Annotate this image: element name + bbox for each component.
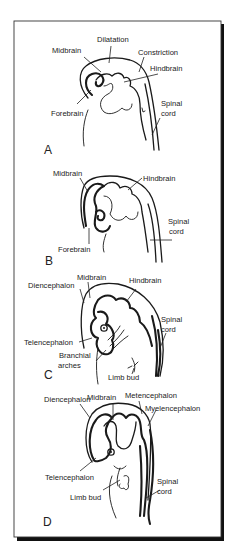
label-c-branchial: Branchial <box>59 351 91 360</box>
label-b-spinal: Spinal <box>168 217 189 226</box>
label-c-midbrain: Midbrain <box>77 273 106 282</box>
label-d-midbrain: Midbrain <box>87 393 116 402</box>
panel-d-letter: D <box>43 515 52 529</box>
label-b-forebrain: Forebrain <box>58 245 91 254</box>
label-c-spinal: Spinal <box>161 315 182 324</box>
label-c-limb-bud: Limb bud <box>108 373 139 382</box>
label-c-hindbrain: Hindbrain <box>129 276 162 285</box>
label-c-arches: arches <box>58 361 81 370</box>
label-a-forebrain: Forebrain <box>51 109 84 118</box>
label-c-cord: cord <box>161 325 176 334</box>
label-d-myelencephalon: Myelencephalon <box>145 404 200 413</box>
panel-c-letter: C <box>44 368 53 382</box>
label-d-telencephalon: Telencephalon <box>45 473 94 482</box>
label-a-midbrain: Midbrain <box>52 46 81 55</box>
label-a-cord: cord <box>161 109 176 118</box>
label-c-diencephalon: Diencephalon <box>28 281 74 290</box>
label-b-cord: cord <box>169 227 184 236</box>
panel-c-eye-lens <box>103 327 105 329</box>
label-d-spinal: Spinal <box>157 477 178 486</box>
label-d-cord: cord <box>157 487 172 496</box>
label-a-spinal: Spinal <box>161 99 182 108</box>
label-d-diencephalon: Diencephalon <box>44 395 90 404</box>
label-a-constriction: Constriction <box>138 48 178 57</box>
panel-a-letter: A <box>44 143 52 157</box>
label-b-hindbrain: Hindbrain <box>143 174 176 183</box>
panel-d-eye-lens <box>110 451 112 453</box>
label-d-metencephalon: Metencephalon <box>125 391 177 400</box>
embryonic-brain-diagram: Midbrain Dilatation Constriction Hindbra… <box>0 0 229 555</box>
label-c-telencephalon: Telencephalon <box>24 338 73 347</box>
label-a-hindbrain: Hindbrain <box>150 64 183 73</box>
label-b-midbrain: Midbrain <box>53 169 82 178</box>
label-a-dilatation: Dilatation <box>97 35 129 44</box>
label-d-limb-bud: Limb bud <box>70 493 101 502</box>
panel-b-letter: B <box>45 254 53 268</box>
frame-border <box>14 21 221 537</box>
